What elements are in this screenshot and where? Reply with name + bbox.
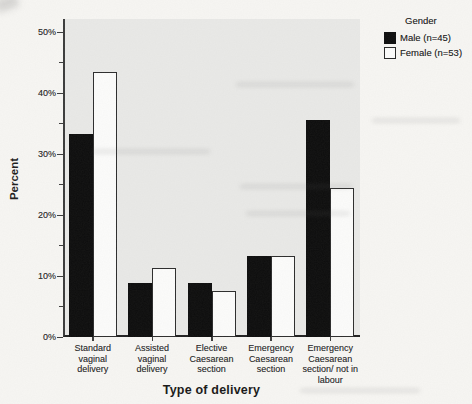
y-tick-label: 0% <box>26 332 56 342</box>
y-tick-mark <box>57 215 63 217</box>
legend-item-male: Male (n=45) <box>384 30 472 45</box>
scan-artifact <box>0 0 20 13</box>
y-tick-mark <box>57 276 63 278</box>
x-category-label: Emergency Caesarean section/ not in labo… <box>296 343 364 385</box>
bar-female-2 <box>212 291 236 337</box>
x-category-label: Elective Caesarean section <box>178 343 246 375</box>
legend-title: Gender <box>405 15 472 26</box>
x-category-label: Emergency Caesarean section <box>237 343 305 375</box>
x-category-label: Assisted vaginal delivery <box>118 343 186 375</box>
bar-female-4 <box>330 188 354 337</box>
y-minor-tick-mark <box>59 245 63 246</box>
bar-female-3 <box>271 256 295 337</box>
x-tick-mark <box>330 337 332 341</box>
bar-male-2 <box>188 283 212 337</box>
bar-male-3 <box>247 256 271 337</box>
y-tick-label: 10% <box>26 271 56 281</box>
legend-item-female: Female (n=53) <box>384 45 472 60</box>
y-tick-mark <box>57 32 63 34</box>
y-tick-mark <box>57 154 63 156</box>
legend-items: Male (n=45)Female (n=53) <box>384 30 472 60</box>
female-swatch-icon <box>384 47 396 59</box>
y-minor-tick-mark <box>59 123 63 124</box>
x-axis-title: Type of delivery <box>63 383 360 397</box>
legend-item-label: Female (n=53) <box>400 47 462 58</box>
legend-item-label: Male (n=45) <box>400 32 451 43</box>
y-minor-tick-mark <box>59 184 63 185</box>
y-minor-tick-mark <box>59 306 63 307</box>
bar-male-1 <box>128 283 152 337</box>
y-axis-title: Percent <box>8 158 20 200</box>
y-minor-tick-mark <box>59 62 63 63</box>
scan-artifact <box>372 118 460 123</box>
male-swatch-icon <box>384 32 396 44</box>
x-tick-mark <box>152 337 154 341</box>
y-tick-label: 20% <box>26 210 56 220</box>
chart-page: Percent 0%10%20%30%40%50% Standard vagin… <box>0 0 472 404</box>
x-category-label: Standard vaginal delivery <box>59 343 127 375</box>
y-tick-label: 40% <box>26 88 56 98</box>
bar-female-0 <box>93 72 117 337</box>
x-tick-mark <box>92 337 94 341</box>
legend: Gender Male (n=45)Female (n=53) <box>384 15 472 60</box>
bar-male-0 <box>69 134 93 337</box>
y-tick-mark <box>57 337 63 339</box>
bar-female-1 <box>152 268 176 337</box>
x-tick-mark <box>270 337 272 341</box>
y-tick-mark <box>57 93 63 95</box>
x-tick-mark <box>211 337 213 341</box>
y-tick-label: 50% <box>26 27 56 37</box>
y-tick-label: 30% <box>26 149 56 159</box>
bar-male-4 <box>306 120 330 337</box>
